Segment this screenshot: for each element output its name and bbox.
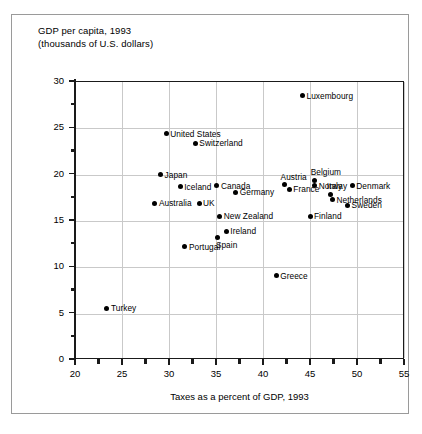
- data-point-marker[interactable]: [224, 229, 229, 234]
- chart-title: GDP per capita, 1993 (thousands of U.S. …: [38, 25, 153, 50]
- x-tick-55: [403, 359, 404, 365]
- y-tick-label-15: 15: [34, 214, 64, 225]
- x-tick-minor-52.5: [379, 359, 381, 364]
- x-axis-title: Taxes as a percent of GDP, 1993: [75, 391, 404, 402]
- data-point-label: Italy: [327, 181, 342, 191]
- x-tick-minor-47.5: [332, 359, 334, 364]
- data-point-label: Belgium: [311, 167, 341, 177]
- x-tick-label-40: 40: [248, 368, 278, 379]
- chart-figure: GDP per capita, 1993 (thousands of U.S. …: [11, 14, 409, 414]
- y-tick-label-10: 10: [34, 260, 64, 271]
- y-tick-minor-22.5: [71, 149, 76, 152]
- data-point-label: Australia: [159, 198, 192, 208]
- data-point-marker[interactable]: [104, 306, 109, 311]
- data-point-marker[interactable]: [282, 182, 287, 187]
- x-tick-50: [356, 359, 357, 365]
- data-point-marker[interactable]: [287, 187, 292, 192]
- data-point-label: Iceland: [184, 181, 211, 191]
- data-point-marker[interactable]: [330, 197, 335, 202]
- x-tick-25: [121, 359, 122, 365]
- y-tick-10: [69, 266, 75, 267]
- gridline-horizontal-15: [75, 221, 403, 222]
- y-tick-minor-17.5: [71, 196, 76, 199]
- data-point-marker[interactable]: [217, 214, 222, 219]
- x-tick-20: [74, 359, 75, 365]
- y-tick-label-5: 5: [34, 307, 64, 318]
- data-point-marker[interactable]: [300, 93, 305, 98]
- data-point-label: Turkey: [111, 303, 136, 313]
- data-point-marker[interactable]: [182, 244, 187, 249]
- plot-area: LuxembourgUnited StatesSwitzerlandJapanI…: [75, 81, 404, 359]
- x-tick-label-55: 55: [389, 368, 419, 379]
- gridline-vertical-50: [357, 82, 358, 358]
- data-point-label: Germany: [240, 187, 274, 197]
- x-tick-minor-32.5: [191, 359, 193, 364]
- y-tick-20: [69, 173, 75, 174]
- data-point-label: Austria: [281, 172, 307, 182]
- data-point-marker[interactable]: [274, 273, 279, 278]
- data-point-marker[interactable]: [158, 172, 163, 177]
- data-point-marker[interactable]: [152, 201, 157, 206]
- gridline-vertical-30: [169, 82, 170, 358]
- data-point-marker[interactable]: [350, 183, 355, 188]
- data-point-label: Luxembourg: [306, 90, 353, 100]
- gridline-vertical-35: [216, 82, 217, 358]
- data-point-marker[interactable]: [193, 141, 198, 146]
- x-tick-30: [168, 359, 169, 365]
- y-tick-label-0: 0: [34, 353, 64, 364]
- y-tick-minor-7.5: [71, 288, 76, 291]
- y-tick-25: [69, 127, 75, 128]
- data-point-label: Ireland: [230, 226, 256, 236]
- data-point-marker[interactable]: [312, 178, 317, 183]
- x-tick-minor-37.5: [238, 359, 240, 364]
- data-point-marker[interactable]: [345, 203, 350, 208]
- data-point-label: Denmark: [356, 180, 390, 190]
- x-tick-label-50: 50: [342, 368, 372, 379]
- data-point-label: Finland: [314, 211, 342, 221]
- x-tick-minor-42.5: [285, 359, 287, 364]
- data-point-marker[interactable]: [197, 201, 202, 206]
- x-tick-minor-22.5: [97, 359, 99, 364]
- data-point-label: UK: [203, 198, 215, 208]
- data-point-label: New Zealand: [224, 211, 273, 221]
- y-tick-label-30: 30: [34, 75, 64, 86]
- x-tick-45: [309, 359, 310, 365]
- data-point-marker[interactable]: [164, 131, 169, 136]
- gridline-horizontal-5: [75, 314, 403, 315]
- data-point-label: Sweden: [352, 200, 382, 210]
- y-tick-5: [69, 312, 75, 313]
- x-tick-40: [262, 359, 263, 365]
- gridline-horizontal-25: [75, 128, 403, 129]
- y-tick-label-25: 25: [34, 121, 64, 132]
- gridline-vertical-45: [310, 82, 311, 358]
- y-tick-15: [69, 219, 75, 220]
- data-point-marker[interactable]: [233, 190, 238, 195]
- y-tick-minor-2.5: [71, 335, 76, 338]
- x-tick-35: [215, 359, 216, 365]
- data-point-marker[interactable]: [328, 192, 333, 197]
- x-tick-label-45: 45: [295, 368, 325, 379]
- y-tick-label-20: 20: [34, 168, 64, 179]
- y-tick-minor-12.5: [71, 242, 76, 245]
- y-tick-30: [69, 80, 75, 81]
- data-point-label: Portugal: [189, 241, 220, 251]
- x-tick-label-25: 25: [107, 368, 137, 379]
- x-tick-label-20: 20: [60, 368, 90, 379]
- data-point-label: Greece: [280, 270, 308, 280]
- data-point-marker[interactable]: [214, 183, 219, 188]
- gridline-vertical-25: [122, 82, 123, 358]
- gridline-vertical-55: [404, 82, 405, 358]
- x-tick-minor-27.5: [144, 359, 146, 364]
- x-tick-label-35: 35: [201, 368, 231, 379]
- gridline-horizontal-20: [75, 175, 403, 176]
- gridline-horizontal-10: [75, 267, 403, 268]
- x-tick-label-30: 30: [154, 368, 184, 379]
- data-point-label: Switzerland: [199, 138, 242, 148]
- data-point-marker[interactable]: [308, 214, 313, 219]
- data-point-label: Japan: [165, 169, 188, 179]
- data-point-marker[interactable]: [178, 184, 183, 189]
- y-tick-minor-27.5: [71, 103, 76, 106]
